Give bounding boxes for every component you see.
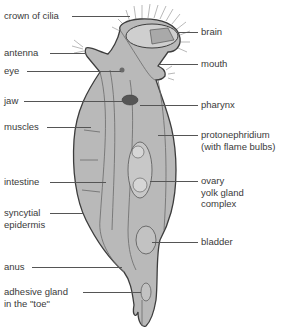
label-syncytial-epidermis: syncytial epidermis bbox=[4, 207, 45, 230]
label-jaw: jaw bbox=[4, 95, 18, 107]
label-bladder: bladder bbox=[201, 236, 233, 248]
label-eye: eye bbox=[4, 65, 19, 77]
leader-bladder bbox=[152, 242, 198, 243]
bladder bbox=[136, 226, 156, 254]
label-ovary-yolk-gland-complex: ovary yolk gland complex bbox=[201, 175, 244, 210]
adhesive-gland bbox=[141, 283, 151, 301]
leader-crown-of-cilia bbox=[72, 16, 130, 17]
label-crown-of-cilia: crown of cilia bbox=[4, 10, 59, 22]
leader-anus bbox=[32, 267, 122, 268]
label-muscles: muscles bbox=[4, 121, 39, 133]
label-antenna: antenna bbox=[4, 47, 38, 59]
label-adhesive-gland: adhesive gland in the "toe" bbox=[4, 286, 68, 309]
leader-mouth bbox=[160, 64, 198, 65]
body bbox=[74, 19, 181, 326]
leader-syncytial-epidermis bbox=[50, 213, 84, 214]
leader-muscles bbox=[47, 127, 91, 128]
leader-jaw bbox=[24, 101, 124, 102]
jaw bbox=[122, 95, 138, 105]
label-brain: brain bbox=[201, 26, 222, 38]
label-mouth: mouth bbox=[201, 58, 227, 70]
label-intestine: intestine bbox=[4, 176, 39, 188]
leader-pharynx bbox=[140, 105, 198, 106]
leader-ovary bbox=[150, 181, 198, 182]
label-anus: anus bbox=[4, 261, 25, 273]
leader-brain bbox=[178, 32, 198, 33]
leader-protonephridium bbox=[158, 135, 198, 136]
label-pharynx: pharynx bbox=[201, 99, 235, 111]
leader-eye bbox=[27, 71, 121, 72]
label-protonephridium: protonephridium (with flame bulbs) bbox=[201, 129, 275, 152]
leader-adhesive-gland bbox=[83, 292, 141, 293]
rotifer-illustration bbox=[0, 0, 282, 329]
leader-intestine bbox=[50, 182, 106, 183]
leader-antenna bbox=[50, 53, 86, 54]
